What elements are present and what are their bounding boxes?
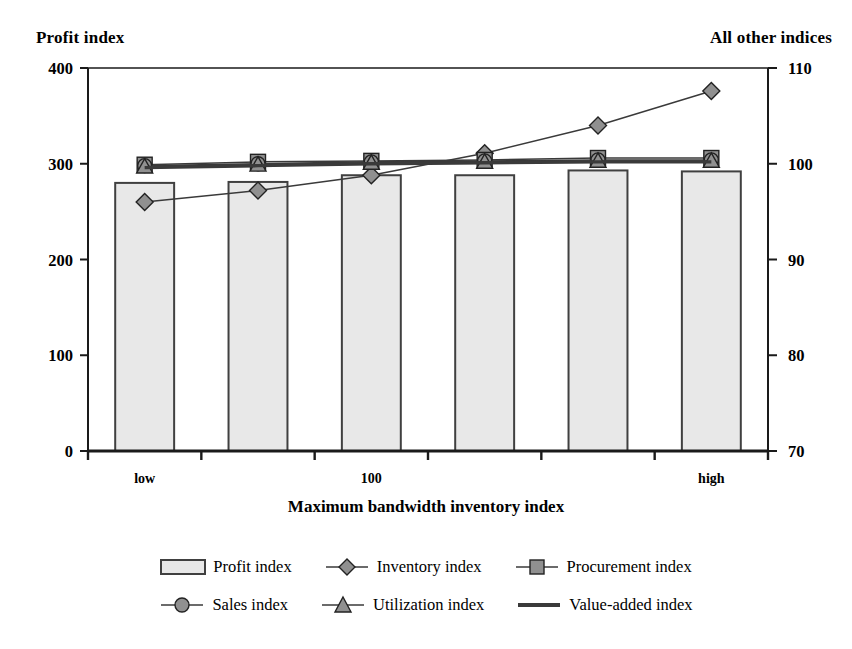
left-tick-label-0: 0 xyxy=(65,442,73,461)
x-axis-label-high: high xyxy=(698,471,725,486)
legend-label: Profit index xyxy=(213,557,291,577)
left-tick-label-300: 300 xyxy=(48,155,73,174)
diamond-icon xyxy=(324,557,370,577)
legend-item-sales-index[interactable]: Sales index xyxy=(159,595,288,615)
bar-4 xyxy=(569,170,628,451)
left-tick-label-100: 100 xyxy=(48,346,73,365)
right-tick-label-80: 80 xyxy=(788,346,805,365)
right-tick-label-110: 110 xyxy=(788,59,812,78)
legend-row-1: Sales indexUtilization indexValue-added … xyxy=(0,586,852,624)
plot-area: 0100200300400708090100110low100high xyxy=(0,0,852,540)
legend-item-utilization-index[interactable]: Utilization index xyxy=(320,595,484,615)
legend-item-inventory-index[interactable]: Inventory index xyxy=(324,557,482,577)
bar-0 xyxy=(115,183,174,451)
bar-swatch-icon xyxy=(160,557,206,577)
marker-diamond-5 xyxy=(703,82,720,99)
x-axis-title: Maximum bandwidth inventory index xyxy=(0,497,852,517)
bar-2 xyxy=(342,175,401,451)
left-tick-label-200: 200 xyxy=(48,251,73,270)
triangle-icon xyxy=(320,595,366,615)
legend-item-value-added-index[interactable]: Value-added index xyxy=(516,595,692,615)
marker-diamond-4 xyxy=(590,117,607,134)
right-tick-label-100: 100 xyxy=(788,155,813,174)
x-axis-label-low: low xyxy=(134,471,156,486)
legend-label: Procurement index xyxy=(567,557,692,577)
legend-row-0: Profit indexInventory indexProcurement i… xyxy=(0,548,852,586)
left-tick-label-400: 400 xyxy=(48,59,73,78)
legend-item-procurement-index[interactable]: Procurement index xyxy=(514,557,692,577)
bar-3 xyxy=(455,175,514,451)
legend-label: Value-added index xyxy=(569,595,692,615)
bar-1 xyxy=(229,182,288,451)
x-axis-label-100: 100 xyxy=(361,471,382,486)
bar-5 xyxy=(682,171,741,451)
legend-label: Inventory index xyxy=(377,557,482,577)
right-tick-label-70: 70 xyxy=(788,442,805,461)
right-tick-label-90: 90 xyxy=(788,251,805,270)
circle-icon xyxy=(159,595,205,615)
legend-label: Sales index xyxy=(212,595,288,615)
square-icon xyxy=(514,557,560,577)
legend-label: Utilization index xyxy=(373,595,484,615)
thick-line-icon xyxy=(516,595,562,615)
legend-item-profit-index[interactable]: Profit index xyxy=(160,557,291,577)
chart-container: Profit index All other indices 010020030… xyxy=(0,0,852,649)
chart-legend: Profit indexInventory indexProcurement i… xyxy=(0,548,852,624)
